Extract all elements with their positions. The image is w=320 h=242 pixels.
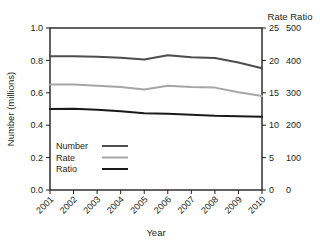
series-line-rate bbox=[50, 84, 262, 96]
x-axis-year-label: 2007 bbox=[176, 194, 197, 215]
x-axis-year-label: 2003 bbox=[81, 194, 102, 215]
x-axis-year-label: 2002 bbox=[58, 194, 79, 215]
rate-axis-tick-label: 20 bbox=[269, 56, 279, 66]
chart-figure: 0.00.20.40.60.81.00510152025010020030040… bbox=[0, 0, 320, 242]
rate-axis-tick-label: 0 bbox=[269, 185, 274, 195]
line-chart: 0.00.20.40.60.81.00510152025010020030040… bbox=[0, 0, 320, 242]
ratio-axis-tick-label: 200 bbox=[286, 120, 301, 130]
legend-label-number: Number bbox=[56, 141, 88, 151]
ratio-axis-tick-label: 100 bbox=[286, 153, 301, 163]
x-axis-year-label: 2010 bbox=[246, 194, 267, 215]
left-axis-tick-label: 0.2 bbox=[30, 153, 43, 163]
left-axis-tick-label: 0.6 bbox=[30, 88, 43, 98]
ratio-axis-tick-label: 300 bbox=[286, 88, 301, 98]
rate-axis-tick-label: 25 bbox=[269, 23, 279, 33]
series-line-ratio bbox=[50, 109, 262, 117]
ratio-axis-tick-label: 500 bbox=[286, 23, 301, 33]
left-axis-tick-label: 0.4 bbox=[30, 120, 43, 130]
legend-label-ratio: Ratio bbox=[56, 164, 77, 174]
left-axis-tick-label: 0.0 bbox=[30, 185, 43, 195]
x-axis-year-label: 2001 bbox=[34, 194, 55, 215]
x-axis-year-label: 2006 bbox=[152, 194, 173, 215]
left-axis-tick-label: 1.0 bbox=[30, 23, 43, 33]
rate-axis-tick-label: 15 bbox=[269, 88, 279, 98]
series-line-number bbox=[50, 55, 262, 68]
right-axis-header: Rate Ratio bbox=[268, 11, 313, 22]
legend-label-rate: Rate bbox=[56, 153, 75, 163]
y-axis-title: Number (millions) bbox=[5, 72, 16, 146]
ratio-axis-tick-label: 0 bbox=[286, 185, 291, 195]
rate-axis-tick-label: 5 bbox=[269, 153, 274, 163]
rate-axis-tick-label: 10 bbox=[269, 120, 279, 130]
left-axis-tick-label: 0.8 bbox=[30, 56, 43, 66]
x-axis-year-label: 2004 bbox=[105, 194, 126, 215]
ratio-axis-tick-label: 400 bbox=[286, 56, 301, 66]
x-axis-year-label: 2008 bbox=[199, 194, 220, 215]
x-axis-year-label: 2009 bbox=[223, 194, 244, 215]
x-axis-year-label: 2005 bbox=[128, 194, 149, 215]
x-axis-title: Year bbox=[146, 227, 165, 238]
